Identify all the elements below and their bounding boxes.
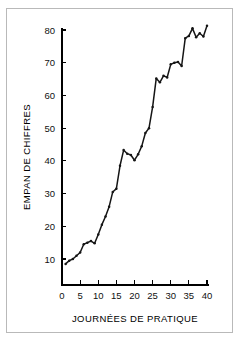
data-point — [173, 61, 176, 64]
data-point — [188, 35, 191, 38]
data-point — [93, 242, 96, 245]
data-point — [155, 77, 158, 80]
data-point — [148, 127, 151, 130]
data-point — [206, 25, 209, 28]
y-tick-label: 20 — [44, 221, 55, 232]
tick-marks — [62, 30, 207, 285]
axes — [62, 28, 209, 285]
data-point — [115, 187, 118, 190]
data-point — [184, 37, 187, 40]
y-axis-title: EMPAN DE CHIFFRES — [21, 104, 32, 210]
data-point — [64, 263, 67, 266]
data-point — [141, 145, 144, 148]
data-point — [166, 76, 169, 79]
y-tick-label: 30 — [44, 188, 55, 199]
data-point — [83, 243, 86, 246]
data-point — [101, 223, 104, 226]
data-point — [199, 32, 202, 35]
data-point — [144, 132, 147, 135]
data-point — [104, 215, 107, 218]
data-point — [195, 36, 198, 39]
line-chart: 0510152025303540 1020304050607080 JOURNÉ… — [0, 0, 240, 342]
axis-lines — [62, 28, 209, 285]
data-point — [97, 233, 100, 236]
x-tick-label: 5 — [77, 290, 82, 301]
y-tick-labels: 1020304050607080 — [44, 25, 55, 265]
x-axis-title: JOURNÉES DE PRATIQUE — [72, 313, 198, 324]
data-series — [64, 25, 208, 266]
y-tick-label: 70 — [44, 57, 55, 68]
y-tick-label: 40 — [44, 155, 55, 166]
data-point — [108, 205, 111, 208]
data-point — [122, 149, 125, 152]
y-tick-label: 10 — [44, 254, 55, 265]
data-point — [90, 240, 93, 243]
data-point — [137, 153, 140, 156]
x-tick-labels: 0510152025303540 — [59, 290, 212, 301]
data-point — [130, 154, 133, 157]
data-point — [170, 63, 173, 66]
x-tick-label: 15 — [111, 290, 122, 301]
data-point — [72, 258, 75, 261]
x-tick-label: 0 — [59, 290, 64, 301]
x-tick-label: 25 — [147, 290, 158, 301]
data-point — [177, 61, 180, 64]
data-point — [159, 81, 162, 84]
data-point — [126, 152, 129, 155]
x-tick-label: 10 — [93, 290, 104, 301]
data-point — [86, 241, 89, 244]
data-point — [180, 65, 183, 68]
x-tick-label: 35 — [184, 290, 195, 301]
data-point — [112, 191, 115, 194]
x-tick-label: 20 — [129, 290, 140, 301]
figure-container: 0510152025303540 1020304050607080 JOURNÉ… — [0, 0, 240, 342]
data-point — [75, 254, 78, 256]
data-point — [191, 27, 194, 30]
data-point — [119, 165, 122, 168]
x-tick-label: 40 — [202, 290, 213, 301]
y-tick-label: 50 — [44, 123, 55, 134]
data-point — [151, 106, 154, 109]
y-tick-label: 80 — [44, 25, 55, 36]
series-line — [66, 26, 207, 264]
data-point — [133, 159, 136, 162]
y-tick-label: 60 — [44, 90, 55, 101]
x-tick-label: 30 — [165, 290, 176, 301]
data-point — [79, 251, 82, 254]
data-point — [202, 35, 205, 38]
data-point — [162, 75, 165, 78]
data-point — [68, 259, 71, 262]
